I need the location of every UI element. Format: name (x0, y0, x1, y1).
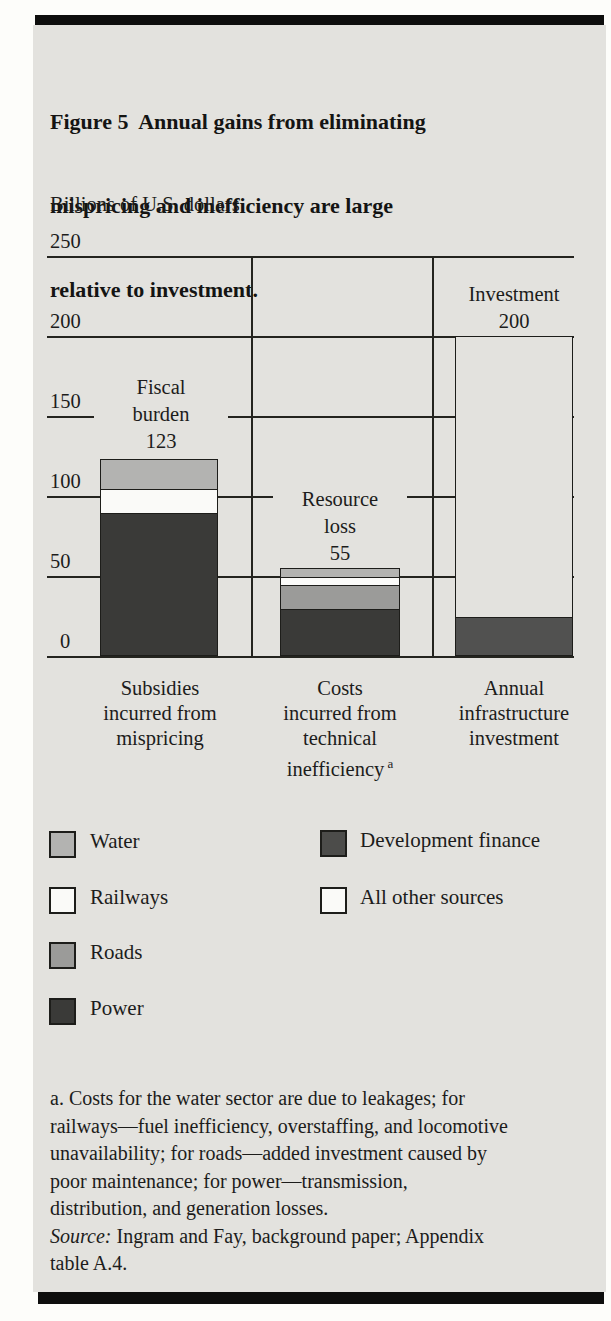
legend-swatch-development-finance (320, 830, 347, 857)
category-label-2: Costsincurred fromtechnicalinefficiency … (258, 676, 422, 782)
y-tick-100: 100 (50, 470, 81, 493)
footnote-line: distribution, and generation losses. (50, 1195, 585, 1223)
annotation-line: Fiscal (94, 374, 228, 401)
category-label-line: mispricing (85, 726, 235, 751)
category-label-line: inefficiency a (258, 751, 422, 782)
bar-segment-development-finance (456, 617, 572, 656)
category-label-line: Annual (430, 676, 598, 701)
category-label-line: Subsidies (85, 676, 235, 701)
bar-segment-railways (281, 577, 399, 585)
bar-2 (280, 568, 400, 656)
legend-swatch-railways (49, 887, 76, 914)
legend-swatch-water (49, 831, 76, 858)
bar-1 (100, 459, 218, 656)
footnote-line: unavailability; for roads—added investme… (50, 1140, 585, 1168)
annotation-line: 55 (273, 540, 407, 567)
bar-segment-all-other-sources (456, 337, 572, 617)
legend-label-power: Power (90, 996, 144, 1021)
figure-panel: Figure 5 Annual gains from eliminating m… (33, 25, 606, 1292)
annotation-line: Resource (273, 486, 407, 513)
bottom-rule (38, 1292, 604, 1304)
figure-page: Figure 5 Annual gains from eliminating m… (0, 0, 611, 1321)
legend-label-all-other-sources: All other sources (360, 885, 503, 910)
legend-label-roads: Roads (90, 940, 143, 965)
bar-segment-railways (101, 489, 217, 513)
gridline-0 (47, 656, 574, 658)
bar-annotation-3: Investment200 (447, 281, 581, 335)
category-label-line: Costs (258, 676, 422, 701)
footnote-marker: a (384, 756, 393, 771)
legend-swatch-all-other-sources (320, 887, 347, 914)
category-label-line: incurred from (85, 701, 235, 726)
annotation-line: 123 (94, 428, 228, 455)
category-separator-2 (432, 256, 434, 656)
bar-3 (455, 336, 573, 656)
footnote: a. Costs for the water sector are due to… (50, 1085, 585, 1278)
legend-swatch-roads (49, 942, 76, 969)
category-label-line: infrastructure (430, 701, 598, 726)
footnote-line: poor maintenance; for power—transmission… (50, 1168, 585, 1196)
bar-segment-power (101, 513, 217, 656)
bar-segment-roads (281, 585, 399, 609)
bar-segment-water (281, 569, 399, 577)
category-label-1: Subsidiesincurred frommispricing (85, 676, 235, 751)
footnote-source-line: Source: Ingram and Fay, background paper… (50, 1223, 585, 1251)
category-label-line: investment (430, 726, 598, 751)
category-separator-1 (251, 256, 253, 656)
legend-label-water: Water (90, 829, 140, 854)
gridline-250 (47, 256, 574, 258)
y-tick-50: 50 (50, 550, 71, 573)
legend-label-railways: Railways (90, 885, 168, 910)
footnote-line: railways—fuel inefficiency, overstaffing… (50, 1113, 585, 1141)
source-text: Ingram and Fay, background paper; Append… (111, 1225, 484, 1247)
category-label-line: incurred from (258, 701, 422, 726)
annotation-line: loss (273, 513, 407, 540)
annotation-line: 200 (447, 308, 581, 335)
y-tick-200: 200 (50, 310, 81, 333)
footnote-line: a. Costs for the water sector are due to… (50, 1085, 585, 1113)
stacked-bar-chart: 250200150100500Fiscalburden123Subsidiesi… (0, 0, 611, 800)
annotation-line: Investment (447, 281, 581, 308)
footnote-source-line: table A.4. (50, 1250, 585, 1278)
bar-segment-water (101, 460, 217, 489)
source-label: Source: (50, 1225, 111, 1247)
legend-swatch-power (49, 998, 76, 1025)
bar-annotation-1: Fiscalburden123 (94, 374, 228, 455)
bar-segment-power (281, 609, 399, 656)
legend-label-development-finance: Development finance (360, 828, 540, 853)
y-tick-0: 0 (60, 630, 70, 653)
y-tick-250: 250 (50, 230, 81, 253)
y-tick-150: 150 (50, 390, 81, 413)
annotation-line: burden (94, 401, 228, 428)
bar-annotation-2: Resourceloss55 (273, 486, 407, 567)
category-label-line: technical (258, 726, 422, 751)
category-label-3: Annualinfrastructureinvestment (430, 676, 598, 751)
